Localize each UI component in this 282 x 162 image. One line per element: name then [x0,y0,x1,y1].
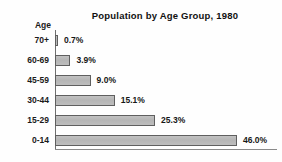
bar [55,55,70,66]
plot-area: 0.7%3.9%9.0%15.1%25.3%46.0% [55,30,280,150]
bar-chart: Population by Age Group, 1980 Age 0.7%3.… [0,0,282,162]
category-label: 70+ [5,30,49,50]
chart-baseline [55,149,277,150]
bar-row: 0.7% [55,30,280,50]
bar-row: 15.1% [55,90,280,110]
y-axis-caption: Age [23,20,51,30]
chart-title: Population by Age Group, 1980 [55,10,275,21]
category-label: 60-69 [5,50,49,70]
category-label: 0-14 [5,130,49,150]
bar [55,35,58,46]
category-label: 30-44 [5,90,49,110]
bar-value-label: 46.0% [243,135,267,146]
bar-value-label: 15.1% [121,95,145,106]
bar-value-label: 25.3% [161,115,185,126]
bar [55,95,115,106]
bar-value-label: 3.9% [76,55,95,66]
bar-value-label: 9.0% [97,75,116,86]
bar-row: 25.3% [55,110,280,130]
bar-value-label: 0.7% [64,35,83,46]
category-label: 45-59 [5,70,49,90]
bar [55,115,155,126]
category-label: 15-29 [5,110,49,130]
bar-row: 3.9% [55,50,280,70]
bar-row: 9.0% [55,70,280,90]
bar [55,135,237,146]
bar-row: 46.0% [55,130,280,150]
bar [55,75,91,86]
